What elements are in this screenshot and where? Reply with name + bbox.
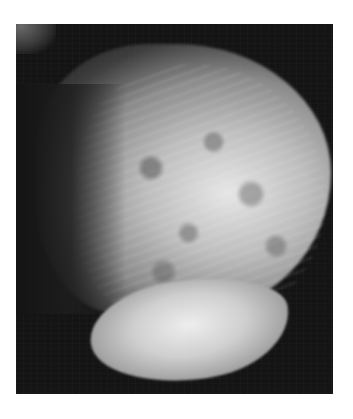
chest-wall-shadow xyxy=(16,84,126,314)
corner-artifact xyxy=(16,24,56,54)
mammogram-image xyxy=(16,24,333,394)
